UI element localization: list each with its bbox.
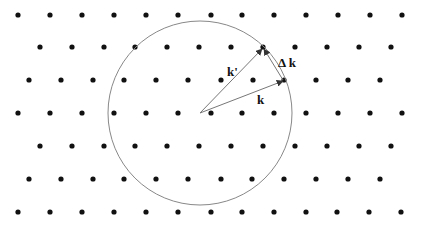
lattice-point bbox=[196, 44, 201, 49]
lattice-point bbox=[239, 12, 244, 17]
lattice-point bbox=[101, 143, 106, 148]
lattice-point bbox=[15, 12, 20, 17]
lattice-point bbox=[175, 110, 180, 115]
lattice-point bbox=[292, 44, 297, 49]
lattice-point bbox=[345, 176, 350, 181]
lattice-point bbox=[377, 77, 382, 82]
lattice-point bbox=[228, 143, 233, 148]
lattice-point bbox=[47, 12, 52, 17]
lattice-point bbox=[377, 176, 382, 181]
lattice-point bbox=[218, 77, 223, 82]
lattice-point bbox=[153, 176, 158, 181]
lattice-point bbox=[101, 44, 106, 49]
lattice-point bbox=[399, 12, 404, 17]
lattice-point bbox=[47, 209, 52, 214]
lattice-point bbox=[228, 44, 233, 49]
lattice-point bbox=[303, 12, 308, 17]
ewald-diagram: k k' Δ k bbox=[0, 0, 422, 225]
lattice-point bbox=[292, 143, 297, 148]
lattice-point bbox=[26, 77, 31, 82]
lattice-point bbox=[175, 209, 180, 214]
lattice-point bbox=[143, 209, 148, 214]
delta-k-label: Δ k bbox=[278, 55, 297, 70]
lattice-point bbox=[398, 209, 403, 214]
lattice-point bbox=[79, 12, 84, 17]
lattice-point bbox=[15, 209, 20, 214]
lattice-point bbox=[249, 176, 254, 181]
lattice-point bbox=[388, 143, 393, 148]
lattice-point bbox=[239, 209, 244, 214]
lattice-point bbox=[313, 77, 318, 82]
lattice-point bbox=[313, 176, 318, 181]
lattice-point bbox=[132, 44, 137, 49]
lattice-point bbox=[250, 77, 255, 82]
reciprocal-lattice bbox=[15, 12, 404, 214]
lattice-point bbox=[111, 110, 116, 115]
lattice-point bbox=[218, 176, 223, 181]
lattice-point bbox=[399, 110, 404, 115]
k-vector bbox=[200, 81, 283, 113]
lattice-point bbox=[345, 77, 350, 82]
lattice-point bbox=[271, 209, 276, 214]
lattice-point bbox=[143, 110, 148, 115]
lattice-point bbox=[153, 77, 158, 82]
lattice-point bbox=[367, 12, 372, 17]
lattice-point bbox=[271, 12, 276, 17]
lattice-point bbox=[37, 143, 42, 148]
lattice-point bbox=[185, 176, 190, 181]
lattice-point bbox=[303, 209, 308, 214]
lattice-point bbox=[356, 44, 361, 49]
lattice-point bbox=[175, 12, 180, 17]
lattice-point bbox=[334, 209, 339, 214]
lattice-point bbox=[69, 44, 74, 49]
lattice-point bbox=[303, 110, 308, 115]
k-prime-label: k' bbox=[227, 64, 238, 79]
lattice-point bbox=[271, 110, 276, 115]
lattice-point bbox=[260, 44, 265, 49]
lattice-point bbox=[356, 143, 361, 148]
lattice-point bbox=[79, 209, 84, 214]
lattice-point bbox=[208, 110, 213, 115]
lattice-point bbox=[196, 143, 201, 148]
lattice-point bbox=[324, 143, 329, 148]
lattice-point bbox=[121, 176, 126, 181]
lattice-point bbox=[47, 110, 52, 115]
lattice-point bbox=[335, 12, 340, 17]
lattice-point bbox=[164, 143, 169, 148]
lattice-point bbox=[132, 143, 137, 148]
lattice-point bbox=[260, 143, 265, 148]
lattice-point bbox=[111, 209, 116, 214]
lattice-point bbox=[26, 176, 31, 181]
lattice-point bbox=[239, 110, 244, 115]
k-label: k bbox=[257, 92, 265, 107]
lattice-point bbox=[185, 77, 190, 82]
lattice-point bbox=[90, 176, 95, 181]
lattice-point bbox=[58, 176, 63, 181]
lattice-point bbox=[335, 110, 340, 115]
lattice-point bbox=[111, 12, 116, 17]
lattice-point bbox=[367, 110, 372, 115]
wave-vectors bbox=[200, 49, 283, 113]
lattice-point bbox=[121, 77, 126, 82]
lattice-point bbox=[37, 44, 42, 49]
lattice-point bbox=[15, 110, 20, 115]
lattice-point bbox=[164, 44, 169, 49]
lattice-point bbox=[69, 143, 74, 148]
lattice-point bbox=[79, 110, 84, 115]
lattice-point bbox=[388, 44, 393, 49]
lattice-point bbox=[90, 77, 95, 82]
lattice-point bbox=[208, 12, 213, 17]
lattice-point bbox=[208, 209, 213, 214]
lattice-point bbox=[58, 77, 63, 82]
lattice-point bbox=[366, 209, 371, 214]
lattice-point bbox=[143, 12, 148, 17]
lattice-point bbox=[324, 44, 329, 49]
lattice-point bbox=[281, 176, 286, 181]
